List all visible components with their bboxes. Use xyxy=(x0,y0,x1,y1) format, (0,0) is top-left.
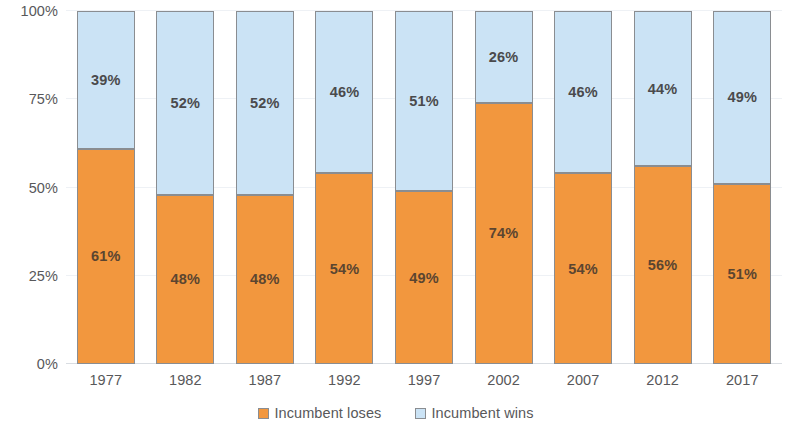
x-axis-tick-label: 2007 xyxy=(567,372,600,388)
x-axis-tick-label: 1997 xyxy=(408,372,441,388)
bar-value-label: 39% xyxy=(91,72,121,88)
bar-segment-incumbent-loses[interactable]: 49% xyxy=(395,191,453,364)
bar-value-label: 51% xyxy=(409,93,439,109)
bar-segment-incumbent-loses[interactable]: 48% xyxy=(156,195,214,364)
bar-group[interactable]: 44%56% xyxy=(634,11,692,364)
bar-group[interactable]: 52%48% xyxy=(156,11,214,364)
bar-value-label: 48% xyxy=(171,271,201,287)
y-axis-tick-label: 75% xyxy=(6,91,58,107)
y-axis-tick-label: 0% xyxy=(6,356,58,372)
bar-segment-incumbent-wins[interactable]: 46% xyxy=(554,11,612,173)
x-axis: 197719821987199219972002200720122017 xyxy=(66,366,782,394)
bar-segment-incumbent-wins[interactable]: 39% xyxy=(77,11,135,149)
x-axis-tick-label: 2017 xyxy=(726,372,759,388)
legend-label: Incumbent loses xyxy=(274,405,381,421)
legend-item[interactable]: Incumbent wins xyxy=(415,405,533,421)
bar-segment-incumbent-wins[interactable]: 44% xyxy=(634,11,692,166)
x-axis-tick-label: 1992 xyxy=(328,372,361,388)
bar-value-label: 46% xyxy=(568,84,598,100)
chart-legend: Incumbent losesIncumbent wins xyxy=(0,405,792,421)
bar-value-label: 54% xyxy=(330,261,360,277)
bar-segment-incumbent-loses[interactable]: 51% xyxy=(713,184,771,364)
x-axis-tick-label: 1982 xyxy=(169,372,202,388)
bar-value-label: 48% xyxy=(250,271,280,287)
bar-segment-incumbent-loses[interactable]: 74% xyxy=(475,103,533,364)
bar-value-label: 49% xyxy=(409,270,439,286)
y-axis-tick-label: 100% xyxy=(6,3,58,19)
bar-segment-incumbent-loses[interactable]: 48% xyxy=(236,195,294,364)
bar-group[interactable]: 51%49% xyxy=(395,11,453,364)
bar-value-label: 74% xyxy=(489,225,519,241)
y-axis-tick-label: 50% xyxy=(6,180,58,196)
legend-swatch-icon xyxy=(258,408,269,419)
bar-segment-incumbent-wins[interactable]: 52% xyxy=(236,11,294,195)
legend-label: Incumbent wins xyxy=(431,405,533,421)
bar-group[interactable]: 39%61% xyxy=(77,11,135,364)
bar-value-label: 52% xyxy=(250,95,280,111)
bar-value-label: 44% xyxy=(648,81,678,97)
y-axis-tick-label: 25% xyxy=(6,268,58,284)
bar-value-label: 61% xyxy=(91,248,121,264)
bar-value-label: 26% xyxy=(489,49,519,65)
bar-segment-incumbent-loses[interactable]: 54% xyxy=(554,173,612,364)
bar-group[interactable]: 46%54% xyxy=(554,11,612,364)
stacked-bar-chart: 0%25%50%75%100% 39%61%52%48%52%48%46%54%… xyxy=(0,0,792,434)
bar-group[interactable]: 46%54% xyxy=(315,11,373,364)
bar-segment-incumbent-wins[interactable]: 46% xyxy=(315,11,373,173)
bar-value-label: 52% xyxy=(171,95,201,111)
x-axis-tick-label: 1987 xyxy=(249,372,282,388)
bar-group[interactable]: 49%51% xyxy=(713,11,771,364)
legend-swatch-icon xyxy=(415,408,426,419)
y-axis: 0%25%50%75%100% xyxy=(0,11,58,364)
bar-value-label: 51% xyxy=(727,266,757,282)
legend-item[interactable]: Incumbent loses xyxy=(258,405,381,421)
bar-segment-incumbent-wins[interactable]: 26% xyxy=(475,11,533,103)
bar-group[interactable]: 52%48% xyxy=(236,11,294,364)
bar-value-label: 56% xyxy=(648,257,678,273)
bar-value-label: 46% xyxy=(330,84,360,100)
bar-segment-incumbent-loses[interactable]: 61% xyxy=(77,149,135,364)
x-axis-tick-label: 2012 xyxy=(646,372,679,388)
plot-area: 39%61%52%48%52%48%46%54%51%49%26%74%46%5… xyxy=(66,11,782,364)
bar-segment-incumbent-wins[interactable]: 51% xyxy=(395,11,453,191)
bar-value-label: 49% xyxy=(727,89,757,105)
bar-segment-incumbent-loses[interactable]: 54% xyxy=(315,173,373,364)
bar-group[interactable]: 26%74% xyxy=(475,11,533,364)
bar-segment-incumbent-wins[interactable]: 52% xyxy=(156,11,214,195)
bar-segment-incumbent-loses[interactable]: 56% xyxy=(634,166,692,364)
x-axis-tick-label: 1977 xyxy=(89,372,122,388)
bar-value-label: 54% xyxy=(568,261,598,277)
bar-segment-incumbent-wins[interactable]: 49% xyxy=(713,11,771,184)
x-axis-tick-label: 2002 xyxy=(487,372,520,388)
